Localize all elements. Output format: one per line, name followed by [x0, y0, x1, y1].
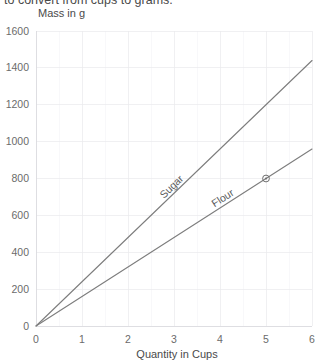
y-tick-label: 1000: [6, 135, 30, 147]
x-tick-label: 5: [263, 333, 269, 345]
x-tick-label: 1: [79, 333, 85, 345]
y-tick-label: 400: [11, 246, 29, 258]
y-tick-label: 200: [11, 283, 29, 295]
x-tick-label: 0: [33, 333, 39, 345]
y-tick-label: 1200: [6, 98, 30, 110]
y-tick-labels: 02004006008001000120014001600: [6, 25, 30, 332]
x-tick-label: 6: [309, 333, 315, 345]
x-tick-label: 2: [125, 333, 131, 345]
y-tick-label: 0: [23, 320, 29, 332]
y-tick-label: 1400: [6, 61, 30, 73]
x-tick-labels: 0123456: [33, 333, 315, 345]
x-tick-label: 4: [217, 333, 223, 345]
y-tick-label: 1600: [6, 25, 30, 37]
y-tick-label: 800: [11, 172, 29, 184]
data-point-center-dot: [265, 177, 267, 179]
x-tick-label: 3: [171, 333, 177, 345]
line-chart: 02004006008001000120014001600 0123456 Su…: [0, 0, 319, 360]
chart-page: to convert from cups to grams. Mass in g…: [0, 0, 319, 360]
series-labels: SugarFlour: [157, 172, 236, 209]
x-axis-title: Quantity in Cups: [136, 348, 218, 360]
y-tick-label: 600: [11, 209, 29, 221]
